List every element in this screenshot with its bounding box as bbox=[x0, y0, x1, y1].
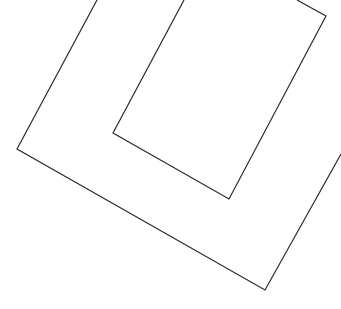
drawing-canvas bbox=[0, 0, 341, 309]
outer-outline bbox=[17, 0, 341, 290]
line-drawing bbox=[0, 0, 341, 309]
inner-outline bbox=[113, 0, 326, 199]
